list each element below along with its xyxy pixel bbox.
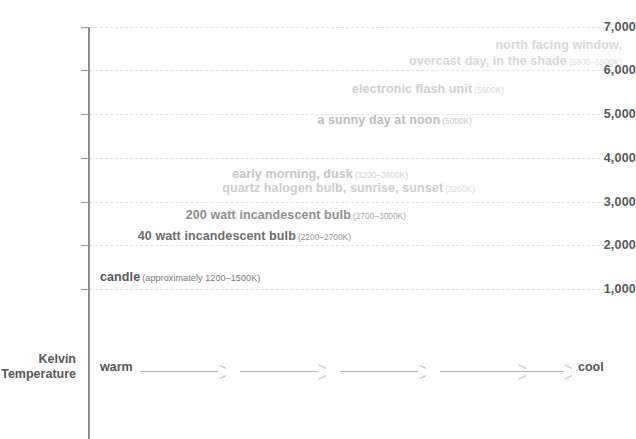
data-label-early-morning-dusk: early morning, dusk(3200–3600K)	[232, 167, 408, 181]
data-label-200-watt-incandescent-bulb: 200 watt incandescent bulb(2700–3000K)	[186, 208, 406, 222]
direction-arrow-2	[240, 367, 326, 377]
y-tick-label-1000: 1,000	[564, 282, 636, 296]
data-label-text-line2: overcast day, in the shade	[409, 54, 567, 68]
data-label-paren: (3200K)	[445, 185, 475, 194]
data-label-text: electronic flash unit	[352, 82, 472, 96]
y-axis-title-line1: Kelvin	[0, 352, 76, 367]
gridline-3000	[90, 202, 620, 203]
y-axis-title-line2: Temperature	[0, 367, 76, 382]
data-label-paren: (approximately 1200–1500K)	[142, 273, 260, 283]
direction-arrow-3	[340, 367, 426, 377]
direction-arrow-5	[496, 367, 572, 377]
data-label-paren: (3200–3600K)	[355, 171, 408, 180]
data-label-text-line1: north facing window,	[495, 38, 622, 52]
data-label-paren: (5600K)	[474, 86, 504, 95]
y-tick-label-4000: 4,000	[564, 151, 636, 165]
y-tick-label-2000: 2,000	[564, 238, 636, 252]
data-label-text: early morning, dusk	[232, 167, 353, 181]
data-label-electronic-flash-unit: electronic flash unit(5600K)	[352, 82, 504, 96]
direction-arrow-1	[140, 367, 226, 377]
data-label-text: candle	[100, 270, 140, 284]
data-label-quartz-halogen-bulb: quartz halogen bulb, sunrise, sunset(320…	[222, 181, 475, 195]
gridline-1000	[90, 289, 620, 290]
data-label-text: 40 watt incandescent bulb	[138, 229, 296, 243]
data-label-north-facing-window: north facing window, overcast day, in th…	[409, 38, 622, 68]
gridline-4000	[90, 158, 620, 159]
y-tick-label-7000: 7,000	[564, 20, 636, 34]
y-axis-line	[88, 27, 90, 439]
gridline-7000	[90, 27, 620, 28]
y-tick-label-5000: 5,000	[564, 107, 636, 121]
data-label-line2-wrap: overcast day, in the shade(5800–6500K)	[409, 54, 622, 68]
data-label-sunny-day-at-noon: a sunny day at noon(5000K)	[317, 113, 472, 127]
data-label-paren: (2200–2700K)	[298, 233, 351, 242]
kelvin-temperature-chart: 7,000 6,000 5,000 4,000 3,000 2,000 1,00…	[0, 0, 636, 439]
gridline-6000	[90, 70, 620, 71]
cool-end-label: cool	[578, 360, 604, 374]
gridline-2000	[90, 245, 620, 246]
data-label-40-watt-incandescent-bulb: 40 watt incandescent bulb(2200–2700K)	[138, 229, 351, 243]
warm-end-label: warm	[100, 360, 133, 374]
y-tick-label-3000: 3,000	[564, 195, 636, 209]
y-axis-title: Kelvin Temperature	[0, 352, 76, 382]
data-label-text: 200 watt incandescent bulb	[186, 208, 351, 222]
data-label-paren: (5000K)	[442, 117, 472, 126]
data-label-paren: (5800–6500K)	[569, 58, 622, 67]
data-label-paren: (2700–3000K)	[353, 212, 406, 221]
data-label-candle: candle(approximately 1200–1500K)	[100, 270, 260, 284]
data-label-text: quartz halogen bulb, sunrise, sunset	[222, 181, 443, 195]
data-label-text: a sunny day at noon	[317, 113, 440, 127]
